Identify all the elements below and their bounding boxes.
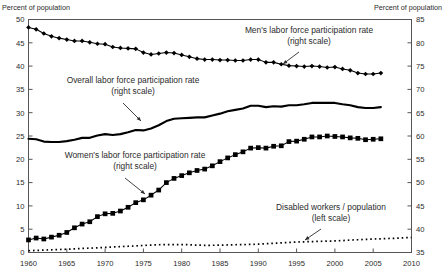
x-tick-label-1990: 1990 <box>250 259 267 268</box>
x-tick-label-1995: 1995 <box>288 259 305 268</box>
marker-point-2-17 <box>156 188 161 193</box>
marker-point-2-11 <box>110 211 115 216</box>
disabled-annotation-line-0: Disabled workers / population <box>276 202 386 212</box>
marker-point-2-23 <box>202 167 207 172</box>
marker-point-2-46 <box>379 136 384 141</box>
marker-point-2-0 <box>26 238 31 243</box>
men-annotation-line-1: (right scale) <box>287 36 331 46</box>
marker-point-2-25 <box>218 159 223 164</box>
marker-point-2-27 <box>233 152 238 157</box>
men-annotation-line-0: Men's labor force participation rate <box>245 25 374 35</box>
left-tick-label-5: 5 <box>20 225 24 234</box>
left-tick-label-10: 10 <box>16 202 24 211</box>
marker-point-2-12 <box>118 209 123 214</box>
marker-point-2-39 <box>325 134 330 139</box>
marker-point-2-3 <box>49 235 54 240</box>
right-tick-label-60: 60 <box>416 132 424 141</box>
marker-point-2-22 <box>195 168 200 173</box>
marker-point-2-36 <box>302 137 307 142</box>
marker-point-2-16 <box>149 193 154 198</box>
right-tick-label-40: 40 <box>416 225 424 234</box>
marker-point-2-15 <box>141 197 146 202</box>
x-tick-label-2005: 2005 <box>365 259 382 268</box>
marker-point-2-9 <box>95 214 100 219</box>
marker-point-2-31 <box>264 146 269 151</box>
marker-point-2-14 <box>133 200 138 205</box>
marker-point-2-24 <box>210 163 215 168</box>
x-tick-label-1960: 1960 <box>20 259 37 268</box>
chart-figure: Percent of populationPercent of populati… <box>0 0 444 276</box>
x-tick-label-1965: 1965 <box>58 259 75 268</box>
women-annotation-line-1: (right scale) <box>113 161 157 171</box>
x-tick-label-1970: 1970 <box>97 259 114 268</box>
right-tick-label-70: 70 <box>416 85 424 94</box>
left-tick-label-0: 0 <box>20 248 24 257</box>
marker-point-2-20 <box>179 173 184 178</box>
marker-point-2-42 <box>348 136 353 141</box>
x-tick-label-1975: 1975 <box>135 259 152 268</box>
marker-point-2-41 <box>340 135 345 140</box>
marker-point-2-45 <box>371 137 376 142</box>
marker-point-2-29 <box>248 146 253 151</box>
right-tick-label-85: 85 <box>416 15 424 24</box>
marker-point-2-2 <box>41 237 46 242</box>
disabled-annotation-line-1: (left scale) <box>312 213 351 223</box>
marker-point-2-34 <box>287 139 292 144</box>
marker-point-2-18 <box>164 180 169 185</box>
marker-point-2-13 <box>126 205 131 210</box>
women-annotation-line-0: Women's labor force participation rate <box>65 150 206 160</box>
x-tick-label-1985: 1985 <box>212 259 229 268</box>
overall-annotation-line-0: Overall labor force participation rate <box>67 75 200 85</box>
marker-point-2-44 <box>363 137 368 142</box>
left-tick-label-15: 15 <box>16 178 24 187</box>
left-tick-label-45: 45 <box>16 39 24 48</box>
marker-point-2-40 <box>333 134 338 139</box>
marker-point-2-21 <box>187 170 192 175</box>
marker-point-2-7 <box>80 222 85 227</box>
left-tick-label-30: 30 <box>16 109 24 118</box>
marker-point-2-26 <box>225 156 230 161</box>
left-axis-title: Percent of population <box>2 3 70 12</box>
right-tick-label-35: 35 <box>416 248 424 257</box>
marker-point-2-10 <box>103 211 108 216</box>
right-tick-label-55: 55 <box>416 155 424 164</box>
marker-point-2-6 <box>72 225 77 230</box>
marker-point-2-33 <box>279 143 284 148</box>
left-tick-label-40: 40 <box>16 62 24 71</box>
left-tick-label-35: 35 <box>16 85 24 94</box>
marker-point-2-8 <box>87 219 92 224</box>
x-tick-label-2010: 2010 <box>403 259 420 268</box>
right-tick-label-50: 50 <box>416 178 424 187</box>
right-tick-label-65: 65 <box>416 109 424 118</box>
marker-point-2-5 <box>64 230 69 235</box>
marker-point-2-28 <box>241 149 246 154</box>
right-axis-title: Percent of population <box>374 3 442 12</box>
left-tick-label-50: 50 <box>16 15 24 24</box>
marker-point-2-38 <box>317 135 322 140</box>
left-tick-label-25: 25 <box>16 132 24 141</box>
marker-point-2-1 <box>34 236 39 241</box>
marker-point-2-32 <box>271 144 276 149</box>
marker-point-2-19 <box>172 176 177 181</box>
overall-annotation-line-1: (right scale) <box>111 86 155 96</box>
marker-point-2-35 <box>294 139 299 144</box>
right-tick-label-80: 80 <box>416 39 424 48</box>
marker-point-2-37 <box>310 135 315 140</box>
marker-point-2-30 <box>256 145 261 150</box>
left-tick-label-20: 20 <box>16 155 24 164</box>
marker-point-2-4 <box>57 233 62 238</box>
x-tick-label-1980: 1980 <box>173 259 190 268</box>
right-tick-label-75: 75 <box>416 62 424 71</box>
marker-point-2-43 <box>356 136 361 141</box>
x-tick-label-2000: 2000 <box>326 259 343 268</box>
right-tick-label-45: 45 <box>416 202 424 211</box>
